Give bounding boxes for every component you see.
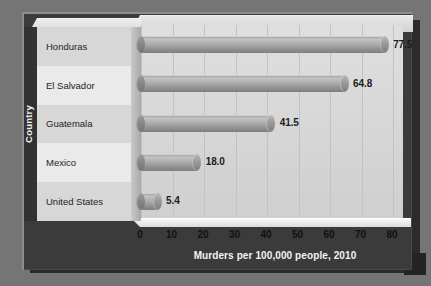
category-label: Mexico <box>37 157 76 168</box>
category-panel: HondurasEl SalvadorGuatemalaMexicoUnited… <box>37 27 141 221</box>
bar-body <box>140 154 197 171</box>
y-axis-title: Country <box>22 27 35 221</box>
bar-value-label: 64.8 <box>353 78 372 89</box>
category-row: United States <box>37 182 141 221</box>
bar <box>140 115 271 132</box>
bar-value-label: 77.5 <box>393 39 412 50</box>
chart-card-top-highlight <box>22 12 412 14</box>
bar-value-label: 18.0 <box>206 156 225 167</box>
bar-value-label: 5.4 <box>166 195 180 206</box>
category-label: Honduras <box>37 41 87 52</box>
bar-cap-right <box>380 36 389 53</box>
bar-cap-right <box>266 115 275 132</box>
x-tick-label: 20 <box>197 229 208 240</box>
x-tick-label: 70 <box>355 229 366 240</box>
category-label: Guatemala <box>37 118 92 129</box>
bar-cap-left <box>136 115 145 132</box>
x-axis-title: Murders per 100,000 people, 2010 <box>150 250 400 261</box>
gridline <box>330 25 331 221</box>
x-tick-label: 30 <box>229 229 240 240</box>
category-row: Guatemala <box>37 105 141 144</box>
bar-cap-right <box>340 75 349 92</box>
bar-cap-left <box>136 154 145 171</box>
bar <box>140 36 384 53</box>
category-label: El Salvador <box>37 80 95 91</box>
x-tick-label: 40 <box>260 229 271 240</box>
gridline <box>393 25 394 221</box>
bar <box>140 75 344 92</box>
bar-body <box>140 75 344 92</box>
bar <box>140 193 157 210</box>
category-row: Honduras <box>37 27 141 66</box>
bar-cap-left <box>136 36 145 53</box>
category-row: Mexico <box>37 143 141 182</box>
x-axis-edge <box>140 218 411 219</box>
x-tick-label: 0 <box>137 229 143 240</box>
x-tick-label: 80 <box>386 229 397 240</box>
bar-cap-left <box>136 193 145 210</box>
bar <box>140 154 197 171</box>
category-row: El Salvador <box>37 66 141 105</box>
x-tick-label: 60 <box>323 229 334 240</box>
bar-cap-right <box>153 193 162 210</box>
category-label: United States <box>37 196 103 207</box>
x-axis-floor <box>131 218 411 227</box>
bar-cap-right <box>192 154 201 171</box>
bar-value-label: 41.5 <box>280 117 299 128</box>
bar-body <box>140 36 384 53</box>
x-tick-label: 10 <box>166 229 177 240</box>
bar-body <box>140 115 271 132</box>
chart-screenshot: HondurasEl SalvadorGuatemalaMexicoUnited… <box>0 0 431 286</box>
x-tick-label: 50 <box>292 229 303 240</box>
gridline <box>362 25 363 221</box>
